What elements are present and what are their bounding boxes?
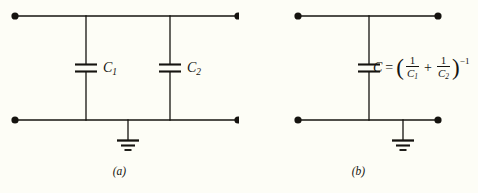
panel-caption-b: (b) xyxy=(239,165,478,177)
formula-term-2: 1 C2 xyxy=(437,55,450,81)
formula-term-1-denominator-subscript: 1 xyxy=(414,72,418,81)
capacitor-c2-letter: C xyxy=(187,60,196,75)
formula-term-2-denominator-subscript: 2 xyxy=(445,72,449,81)
formula-equals: = xyxy=(385,61,393,75)
formula-term-2-denominator: C2 xyxy=(437,67,450,80)
terminal-dot-top-left-b xyxy=(294,12,301,19)
capacitor-c1-subscript: 1 xyxy=(112,67,117,77)
formula-exponent: −1 xyxy=(460,57,470,66)
formula-open-paren: ( xyxy=(396,59,404,77)
formula-close-paren: ) xyxy=(452,59,460,77)
formula-lhs: C xyxy=(373,61,382,75)
capacitor-c1-label: C1 xyxy=(103,61,117,78)
circuit-panel-a: C1 C2 (a) xyxy=(0,0,239,193)
capacitor-c2-symbol xyxy=(159,65,181,72)
capacitor-c2-subscript: 2 xyxy=(196,67,201,77)
formula-term-1-numerator: 1 xyxy=(409,55,417,67)
terminal-dot-top-right-b xyxy=(434,12,441,19)
terminal-dot-bottom-left-b xyxy=(294,116,301,123)
ground-icon-a xyxy=(117,141,139,151)
formula-term-1-denominator: C1 xyxy=(406,67,419,80)
panel-caption-a: (a) xyxy=(0,165,239,177)
ground-icon-b xyxy=(392,141,414,151)
terminal-dots-a xyxy=(11,12,239,123)
circuit-panel-b: C = ( 1 C1 + 1 C2 ) −1 (b) xyxy=(239,0,478,193)
formula-term-2-numerator: 1 xyxy=(440,55,448,67)
formula-term-1: 1 C1 xyxy=(406,55,419,81)
terminal-dot-bottom-right-b xyxy=(434,116,441,123)
capacitor-c1-symbol xyxy=(75,65,97,72)
capacitor-c1-letter: C xyxy=(103,60,112,75)
equivalent-capacitance-formula: C = ( 1 C1 + 1 C2 ) −1 xyxy=(373,55,470,81)
capacitor-c2-label: C2 xyxy=(187,61,201,78)
terminal-dot-bottom-left-a xyxy=(11,116,18,123)
terminal-dot-top-left-a xyxy=(11,12,18,19)
formula-plus: + xyxy=(424,61,432,75)
figure-root: C1 C2 (a) xyxy=(0,0,478,193)
